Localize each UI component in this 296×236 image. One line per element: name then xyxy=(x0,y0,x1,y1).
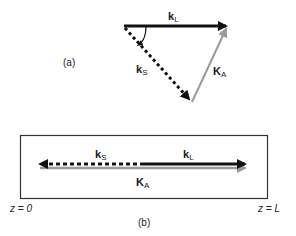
wave-vector-diagram: kL kS KA (a) kS kL KA z = 0 z = L (b) xyxy=(0,0,296,236)
label-k-S: kS xyxy=(136,63,147,77)
label-K-A: KA xyxy=(136,176,150,190)
vector-k-S xyxy=(125,28,189,99)
label-k-L: kL xyxy=(183,148,194,162)
panel-a: kL kS KA (a) xyxy=(63,10,227,102)
boundary-left-label: z = 0 xyxy=(9,203,32,214)
boundary-right-label: z = L xyxy=(257,203,280,214)
label-k-S: kS xyxy=(95,148,106,162)
panel-a-label: (a) xyxy=(63,57,75,68)
panel-b: kS kL KA z = 0 z = L (b) xyxy=(9,136,280,229)
panel-b-label: (b) xyxy=(138,217,150,228)
label-K-A: KA xyxy=(213,65,227,79)
label-k-L: kL xyxy=(168,10,179,24)
